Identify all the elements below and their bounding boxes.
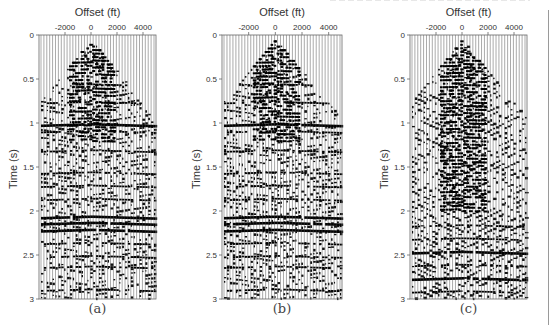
x-tick-label: 0 — [89, 23, 93, 32]
x-tick-label: 2000 — [293, 23, 311, 32]
y-tick-label: 2 — [385, 207, 405, 216]
x-tick-label: 4000 — [134, 23, 152, 32]
y-tick-label: 1 — [385, 119, 405, 128]
seismic-panel-a — [0, 0, 553, 333]
panel-caption: (a) — [89, 301, 107, 316]
y-tick-label: 2.5 — [197, 251, 217, 260]
y-tick-label: 2 — [14, 207, 34, 216]
y-tick-label: 0.5 — [385, 75, 405, 84]
y-tick-label: 1 — [197, 119, 217, 128]
y-tick-label: 0 — [385, 31, 405, 40]
y-axis-title: Time (s) — [378, 149, 390, 189]
y-tick-label: 0 — [197, 31, 217, 40]
y-tick-label: 0 — [14, 31, 34, 40]
seismic-panel-b — [0, 0, 553, 333]
y-tick-label: 3 — [385, 295, 405, 304]
y-tick-label: 2.5 — [14, 251, 34, 260]
x-tick-label: 0 — [460, 23, 464, 32]
y-tick-label: 0.5 — [14, 75, 34, 84]
x-tick-label: -2000 — [426, 23, 446, 32]
y-tick-label: 1 — [14, 119, 34, 128]
y-tick-label: 2.5 — [385, 251, 405, 260]
y-tick-label: 3 — [197, 295, 217, 304]
x-tick-label: 4000 — [320, 23, 338, 32]
panel-caption: (c) — [460, 301, 477, 316]
x-tick-label: -2000 — [238, 23, 258, 32]
x-tick-label: 2000 — [108, 23, 126, 32]
cropped-header-text — [330, 0, 530, 1]
x-tick-label: 2000 — [479, 23, 497, 32]
x-axis-title: Offset (ft) — [75, 6, 121, 18]
panel-caption: (b) — [273, 301, 291, 316]
page-edge-divider — [548, 10, 549, 325]
x-axis-title: Offset (ft) — [446, 6, 492, 18]
x-tick-label: 4000 — [505, 23, 523, 32]
y-axis-title: Time (s) — [7, 149, 19, 189]
x-tick-label: -2000 — [55, 23, 75, 32]
y-tick-label: 3 — [14, 295, 34, 304]
x-tick-label: 0 — [273, 23, 277, 32]
x-axis-title: Offset (ft) — [259, 6, 305, 18]
y-tick-label: 0.5 — [197, 75, 217, 84]
seismic-panel-c — [0, 0, 553, 333]
y-tick-label: 2 — [197, 207, 217, 216]
y-axis-title: Time (s) — [190, 149, 202, 189]
